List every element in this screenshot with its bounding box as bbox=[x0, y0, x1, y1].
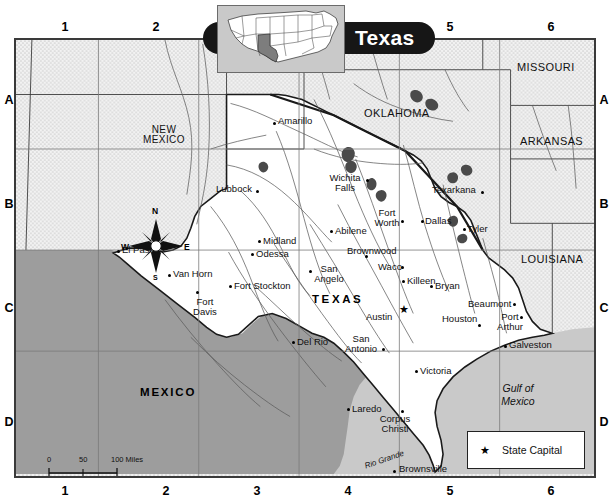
scale-bar-graphic bbox=[47, 467, 171, 478]
grid-label-top-5: 5 bbox=[440, 20, 460, 34]
usa-locator-inset bbox=[217, 5, 345, 73]
legend-label-state-capital: State Capital bbox=[502, 444, 562, 456]
city-label-houston: Houston bbox=[442, 314, 477, 324]
texas-map-page: NEW MEXICO OKLAHOMA ARKANSAS MISSOURI LO… bbox=[0, 0, 610, 502]
city-label-laredo: Laredo bbox=[352, 404, 382, 414]
city-label-austin: Austin bbox=[366, 312, 392, 322]
map-frame: NEW MEXICO OKLAHOMA ARKANSAS MISSOURI LO… bbox=[14, 38, 596, 478]
city-label-dallas: Dallas bbox=[425, 216, 451, 226]
grid-label-left-d: D bbox=[2, 415, 16, 429]
title-banner: Texas bbox=[333, 22, 435, 54]
grid-label-bottom-3: 3 bbox=[247, 484, 267, 498]
city-label-killeen: Killeen bbox=[407, 276, 436, 286]
scale-tick-miles-50: 50 bbox=[79, 455, 87, 464]
grid-label-right-b: B bbox=[597, 197, 610, 211]
usa-locator-graphic bbox=[218, 6, 344, 72]
city-label-galveston: Galveston bbox=[509, 340, 552, 350]
city-label-corpus-christi: Corpus Christi bbox=[373, 414, 417, 434]
scale-tick-miles-100: 100 Miles bbox=[111, 455, 143, 464]
state-capital-icon: ★ bbox=[468, 444, 502, 457]
legend-box: ★ State Capital bbox=[467, 431, 585, 469]
grid-label-bottom-2: 2 bbox=[156, 484, 176, 498]
city-label-fort-worth: Fort Worth bbox=[371, 208, 403, 228]
map-canvas bbox=[16, 40, 594, 476]
region-label-oklahoma: OKLAHOMA bbox=[364, 108, 430, 119]
region-label-texas: TEXAS bbox=[312, 294, 363, 306]
city-label-fort-stockton: Fort Stockton bbox=[234, 281, 291, 291]
city-label-lubbock: Lubbock bbox=[216, 184, 252, 194]
region-label-arkansas: ARKANSAS bbox=[520, 136, 583, 147]
grid-label-bottom-1: 1 bbox=[55, 484, 75, 498]
grid-label-top-2: 2 bbox=[146, 20, 166, 34]
compass-label-north: N bbox=[152, 206, 158, 216]
region-label-mexico: MEXICO bbox=[140, 387, 196, 399]
city-label-brownsville: Brownsville bbox=[399, 464, 447, 474]
grid-label-bottom-5: 5 bbox=[440, 484, 460, 498]
compass-label-east: E bbox=[184, 242, 190, 252]
city-label-wichita-falls: Wichita Falls bbox=[323, 173, 367, 193]
city-label-brownwood: Brownwood bbox=[347, 246, 397, 256]
grid-label-left-a: A bbox=[2, 93, 16, 107]
region-label-louisiana: LOUISIANA bbox=[521, 254, 583, 265]
grid-label-left-c: C bbox=[2, 301, 16, 315]
compass-label-west: W bbox=[121, 242, 129, 252]
city-label-waco: Waco bbox=[378, 262, 402, 272]
city-label-port-arthur: Port Arthur bbox=[496, 312, 524, 332]
scale-tick-miles-0: 0 bbox=[47, 455, 51, 464]
grid-label-bottom-6: 6 bbox=[541, 484, 561, 498]
page-title: Texas bbox=[355, 26, 415, 50]
city-label-tyler: Tyler bbox=[467, 224, 488, 234]
city-label-midland: Midland bbox=[263, 236, 296, 246]
compass-rose: N E S W bbox=[120, 206, 192, 286]
compass-label-south: S bbox=[153, 274, 158, 281]
city-label-beaumont: Beaumont bbox=[468, 299, 511, 309]
city-label-san-antonio: San Antonio bbox=[340, 334, 382, 354]
city-label-fort-davis: Fort Davis bbox=[190, 297, 220, 317]
scale-bar: 0 50 100 Miles 0 50 100 Kilometers Alber… bbox=[47, 455, 171, 478]
grid-label-top-6: 6 bbox=[541, 20, 561, 34]
city-label-abilene: Abilene bbox=[335, 226, 367, 236]
grid-label-right-d: D bbox=[597, 415, 610, 429]
city-label-texarkana: Texarkana bbox=[432, 185, 476, 195]
water-label-gulf-of-mexico: Gulf of Mexico bbox=[481, 382, 555, 407]
grid-label-top-1: 1 bbox=[55, 20, 75, 34]
scale-bar-miles-ticks: 0 50 100 Miles bbox=[47, 455, 171, 466]
city-label-amarillo: Amarillo bbox=[278, 116, 312, 126]
city-label-bryan: Bryan bbox=[435, 281, 460, 291]
grid-label-right-a: A bbox=[597, 93, 610, 107]
city-label-del-rio: Del Rio bbox=[297, 337, 328, 347]
region-label-new-mexico: NEW MEXICO bbox=[128, 125, 200, 146]
city-star-austin: ★ bbox=[399, 304, 409, 315]
grid-label-right-c: C bbox=[597, 301, 610, 315]
city-label-odessa: Odessa bbox=[256, 249, 289, 259]
region-label-missouri: MISSOURI bbox=[517, 62, 575, 73]
city-label-victoria: Victoria bbox=[420, 366, 452, 376]
grid-label-left-b: B bbox=[2, 197, 16, 211]
city-label-san-angelo: San Angelo bbox=[312, 264, 346, 284]
grid-label-bottom-4: 4 bbox=[338, 484, 358, 498]
